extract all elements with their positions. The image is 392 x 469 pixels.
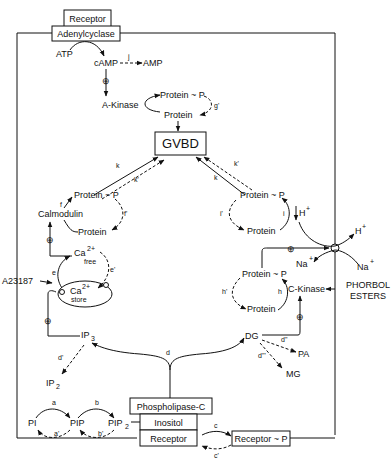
svg-text:d: d <box>166 349 170 356</box>
svg-text:c': c' <box>214 452 219 459</box>
svg-text:h': h' <box>222 288 227 295</box>
svg-text:GVBD: GVBD <box>162 136 199 151</box>
ca-free-label: Ca <box>74 248 86 258</box>
d-to-ip3-arrow <box>92 343 170 400</box>
svg-text:store: store <box>71 296 87 303</box>
outer-frame-left <box>17 33 137 438</box>
h-prime-arrow <box>232 278 246 309</box>
svg-text:a': a' <box>54 430 59 437</box>
signaling-pathway-diagram: Receptor Adenylcyclase ATP cAMP j AMP ⊕ … <box>0 0 392 469</box>
ip2-label: IP <box>46 378 55 388</box>
a23187-label: A23187 <box>2 276 33 286</box>
calmodulin-label: Calmodulin <box>38 209 83 219</box>
svg-text:i: i <box>283 210 285 217</box>
a-kinase-label: A-Kinase <box>102 100 139 110</box>
svg-text:k: k <box>214 174 218 181</box>
c-arrow <box>202 431 231 436</box>
pip2-label: PIP <box>108 418 123 428</box>
svg-text:e': e' <box>110 266 115 273</box>
svg-text:d": d" <box>281 336 288 343</box>
c-prime-arrow <box>202 445 231 449</box>
protein-p-h-label: Protein ~ P <box>242 269 287 279</box>
e-arrow <box>58 256 70 288</box>
receptor-top-box: Receptor <box>64 10 111 27</box>
svg-text:+: + <box>309 255 313 262</box>
h-plus-out-arrow <box>299 222 354 246</box>
dg-label: DG <box>245 331 259 341</box>
k-right-prime-arrow <box>204 157 252 190</box>
svg-text:Receptor: Receptor <box>69 14 106 24</box>
phorbol-label-line1: PHORBOL <box>346 280 390 290</box>
a-arrow <box>36 409 70 418</box>
svg-text:b: b <box>95 399 99 406</box>
svg-text:Ca: Ca <box>70 286 82 296</box>
svg-text:k': k' <box>134 176 139 183</box>
atp-to-camp-arrow <box>70 42 104 56</box>
b-prime-arrow <box>80 430 114 438</box>
outer-frame-right <box>120 33 335 435</box>
h-plus-out-label: H <box>355 226 362 236</box>
svg-text:+: + <box>362 223 366 230</box>
stimulation-symbol: ⊕ <box>46 235 54 245</box>
protein-g-label: Protein <box>164 110 193 120</box>
protein-p-g-label: Protein ~ P <box>160 90 205 100</box>
d-prime-arrow <box>62 345 84 374</box>
svg-text:free: free <box>84 258 96 265</box>
na-plus-in-label: Na <box>296 259 308 269</box>
amp-label: AMP <box>143 58 163 68</box>
i-prime-arrow <box>229 200 244 230</box>
svg-text:c: c <box>214 422 218 429</box>
phospholipase-c-box: Phospholipase-C <box>130 398 212 414</box>
phorbol-label-line2: ESTERS <box>350 291 386 301</box>
dg-to-ckinase-arrow <box>262 296 300 335</box>
svg-text:j: j <box>127 53 130 61</box>
protein-h-label: Protein <box>247 304 276 314</box>
c-kinase-label: C-Kinase <box>288 284 325 294</box>
pi-label: PI <box>28 418 37 428</box>
protein-i-label: Protein <box>247 226 276 236</box>
svg-text:Inositol: Inositol <box>154 418 183 428</box>
a23187-arrow <box>40 281 52 283</box>
svg-text:a: a <box>52 399 56 406</box>
receptor-p-box: Receptor ~ P <box>232 431 290 446</box>
svg-text:Receptor: Receptor <box>150 434 187 444</box>
svg-text:f': f' <box>124 210 127 217</box>
svg-text:2+: 2+ <box>87 245 95 252</box>
svg-text:d': d' <box>58 354 63 361</box>
protein-p-f-label: Protein ~ P <box>74 190 119 200</box>
stimulation-symbol: ⊕ <box>44 316 52 326</box>
stimulation-symbol: ⊕ <box>287 244 295 254</box>
svg-text:Phospholipase-C: Phospholipase-C <box>137 402 206 412</box>
svg-text:Receptor ~ P: Receptor ~ P <box>235 434 288 444</box>
svg-text:h: h <box>278 288 282 295</box>
calmodulin-cycle-arc <box>64 220 78 232</box>
svg-text:2+: 2+ <box>82 283 90 290</box>
gvbd-box: GVBD <box>155 132 206 155</box>
svg-text:e: e <box>52 269 56 276</box>
svg-text:2: 2 <box>56 383 60 390</box>
akinase-phosphorylation-arrow <box>145 95 160 112</box>
svg-text:+: + <box>306 205 310 212</box>
svg-text:i': i' <box>220 210 223 217</box>
svg-text:f: f <box>60 201 62 208</box>
protein-f-label: Protein <box>78 227 107 237</box>
stimulation-symbol: ⊕ <box>296 312 304 322</box>
protein-p-i-label: Protein ~ P <box>240 190 285 200</box>
svg-text:k: k <box>116 162 120 169</box>
i-arrow <box>280 198 289 230</box>
b-arrow <box>78 409 114 418</box>
svg-text:+: + <box>370 258 374 265</box>
svg-text:g': g' <box>214 102 219 110</box>
svg-text:Adenylcyclase: Adenylcyclase <box>57 29 115 39</box>
receptor-bottom-box: Receptor <box>140 430 197 446</box>
h-plus-in-label: H <box>299 208 306 218</box>
ip3-label: IP <box>81 330 90 340</box>
svg-text:b': b' <box>98 430 103 437</box>
svg-text:d"': d"' <box>258 352 266 359</box>
svg-text:k': k' <box>234 160 239 167</box>
mg-label: MG <box>286 369 301 379</box>
f-prime-arrow <box>112 199 123 230</box>
svg-text:2: 2 <box>125 423 129 430</box>
adenylcyclase-box: Adenylcyclase <box>52 26 120 41</box>
pa-label: PA <box>298 349 309 359</box>
